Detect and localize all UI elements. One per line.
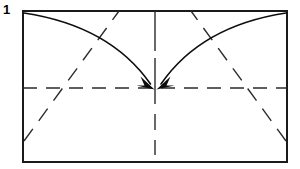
- origami-step-diagram: 1: [0, 0, 300, 169]
- origami-figure-svg: [0, 0, 300, 169]
